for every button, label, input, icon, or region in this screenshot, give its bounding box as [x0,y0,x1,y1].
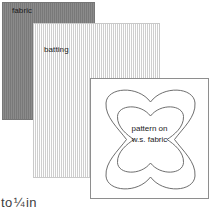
measurement-fraction: ¼ [13,195,26,210]
quatrefoil-pattern-icon [91,79,210,200]
measurement-note: to¼in [1,195,37,210]
batting-label: batting [44,45,69,54]
measurement-prefix: to [1,195,13,210]
diagram-canvas: fabric batting pattern on w.s. fabric to… [0,0,214,218]
pattern-layer: pattern on w.s. fabric [90,78,209,199]
fabric-label: fabric [12,6,32,15]
measurement-unit: in [26,195,37,210]
